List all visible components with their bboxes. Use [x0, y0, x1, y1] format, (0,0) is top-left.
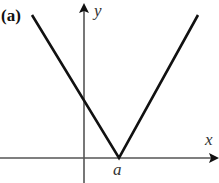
panel-label: (a)	[1, 7, 21, 24]
vertex-label: a	[113, 161, 122, 178]
absolute-value-graph	[0, 0, 219, 183]
x-axis-label: x	[205, 131, 213, 148]
abs-value-curve	[32, 15, 198, 158]
y-axis-label: y	[94, 2, 102, 19]
